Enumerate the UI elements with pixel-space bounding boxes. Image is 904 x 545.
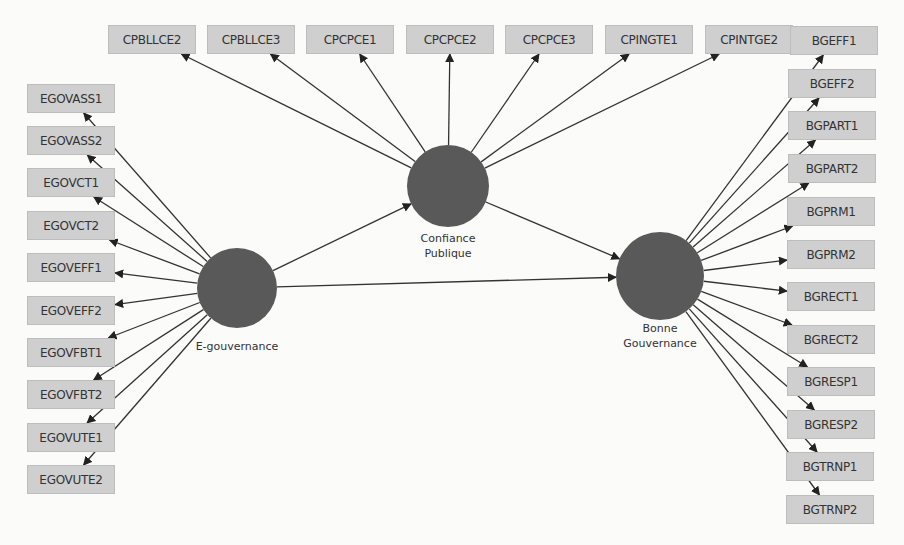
indicator-egovct2[interactable]: EGOVCT2	[27, 211, 115, 240]
indicator-bgeff2[interactable]: BGEFF2	[788, 69, 876, 98]
latent-node-bg[interactable]	[616, 232, 704, 320]
indicator-bgprm2[interactable]: BGPRM2	[787, 240, 875, 269]
indicator-bgrect1[interactable]: BGRECT1	[787, 282, 875, 311]
indicator-cpcpce1[interactable]: CPCPCE1	[306, 25, 394, 54]
indicator-egovute1[interactable]: EGOVUTE1	[27, 423, 115, 452]
indicator-cpintge2[interactable]: CPINTGE2	[705, 25, 793, 54]
indicator-egovute2[interactable]: EGOVUTE2	[27, 465, 115, 494]
loading-edge-cpbllce3	[270, 54, 415, 162]
indicator-cpbllce2[interactable]: CPBLLCE2	[108, 25, 196, 54]
indicator-bgtrnp1[interactable]: BGTRNP1	[786, 452, 874, 481]
loading-edge-cpcpce1	[360, 54, 426, 152]
loading-edge-cpcpce2	[449, 54, 450, 145]
indicator-egovfbt1[interactable]: EGOVFBT1	[27, 338, 115, 367]
indicator-egovfbt2[interactable]: EGOVFBT2	[27, 380, 115, 409]
path-model-canvas	[0, 0, 904, 545]
latent-label-bg: Bonne Gouvernance	[600, 321, 720, 351]
indicator-bgresp2[interactable]: BGRESP2	[787, 410, 875, 439]
latent-label-egov: E-gouvernance	[177, 339, 297, 354]
loading-edge-cpintge2	[485, 54, 719, 168]
indicator-egovct1[interactable]: EGOVCT1	[27, 168, 115, 197]
indicator-cpingte1[interactable]: CPINGTE1	[605, 25, 693, 54]
indicator-egoveff1[interactable]: EGOVEFF1	[27, 253, 115, 282]
indicator-bgpart2[interactable]: BGPART2	[788, 154, 876, 183]
loading-edge-bgprm1	[701, 226, 792, 260]
loading-edge-bgprm2	[704, 260, 787, 270]
latent-node-egov[interactable]	[197, 248, 277, 328]
indicator-bgpart1[interactable]: BGPART1	[788, 111, 876, 140]
path-egov-to-bg	[277, 277, 616, 287]
loading-edge-cpbllce2	[181, 54, 411, 168]
loading-edge-egovct2	[110, 240, 200, 274]
indicator-bgtrnp2[interactable]: BGTRNP2	[786, 495, 874, 524]
edges-layer	[84, 54, 824, 495]
indicator-egovass2[interactable]: EGOVASS2	[27, 126, 115, 155]
indicator-cpbllce3[interactable]: CPBLLCE3	[207, 25, 295, 54]
latent-label-cp: Confiance Publique	[388, 231, 508, 261]
indicator-bgresp1[interactable]: BGRESP1	[787, 367, 875, 396]
loading-edge-egoveff1	[115, 273, 197, 283]
indicator-cpcpce2[interactable]: CPCPCE2	[406, 25, 494, 54]
indicator-egoveff2[interactable]: EGOVEFF2	[27, 296, 115, 325]
loading-edge-bgrect2	[701, 291, 792, 325]
indicator-bgrect2[interactable]: BGRECT2	[787, 325, 875, 354]
loading-edge-cpcpce3	[471, 54, 539, 152]
indicator-egovass1[interactable]: EGOVASS1	[27, 84, 115, 113]
loading-edge-bgrect1	[704, 281, 787, 291]
indicator-bgprm1[interactable]: BGPRM1	[787, 197, 875, 226]
loading-edge-egoveff2	[115, 293, 197, 304]
indicator-bgeff1[interactable]: BGEFF1	[790, 26, 878, 55]
latent-node-cp[interactable]	[407, 145, 489, 227]
indicator-cpcpce3[interactable]: CPCPCE3	[505, 25, 593, 54]
loading-edge-cpingte1	[481, 54, 629, 162]
